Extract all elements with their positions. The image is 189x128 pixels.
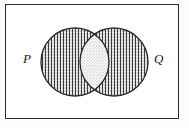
set-label-q: Q [154,52,163,65]
venn-diagram-figure: P Q [0,0,189,128]
set-label-p: P [23,52,31,65]
